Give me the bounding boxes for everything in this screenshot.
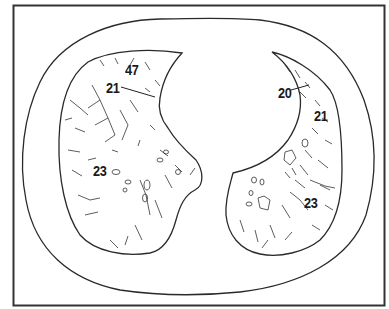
figure-frame bbox=[14, 6, 385, 306]
label-47: 47 bbox=[125, 62, 138, 77]
label-21-right-lung: 21 bbox=[106, 80, 119, 95]
ct-diagram: 47 21 23 20 21 23 bbox=[0, 0, 389, 309]
right-lung-outline bbox=[59, 50, 202, 254]
body-outline bbox=[22, 18, 374, 294]
label-20-left-lung: 20 bbox=[278, 85, 291, 100]
label-23-left-lung: 23 bbox=[304, 195, 317, 210]
label-23-right-lung: 23 bbox=[93, 163, 106, 178]
leader-line-20-left bbox=[291, 85, 309, 90]
label-21-left-lung: 21 bbox=[314, 108, 327, 123]
left-lung-outline bbox=[226, 52, 342, 255]
diagram-canvas bbox=[0, 0, 389, 309]
